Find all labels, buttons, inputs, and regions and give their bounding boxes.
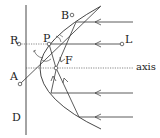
point-f <box>54 66 58 70</box>
label-p: P <box>43 33 50 44</box>
point-l <box>120 42 124 46</box>
point-a <box>18 82 22 86</box>
reflect-mid <box>51 70 56 93</box>
label-f: F <box>65 55 73 66</box>
reflect-p <box>49 44 56 68</box>
label-b: B <box>61 10 69 21</box>
angle-arc-lower <box>34 50 43 58</box>
angle-arc-upper-tick <box>60 35 63 37</box>
angle-arc-f <box>42 59 51 61</box>
parabola-curve <box>40 6 101 129</box>
label-a: A <box>10 71 18 82</box>
label-r: R <box>10 35 18 46</box>
tangent-line <box>20 7 100 84</box>
reflect-bottom-arrow <box>63 78 68 83</box>
point-b <box>70 13 74 17</box>
label-axis: axis <box>136 62 156 72</box>
label-l: L <box>125 34 132 45</box>
label-d: D <box>12 112 21 123</box>
